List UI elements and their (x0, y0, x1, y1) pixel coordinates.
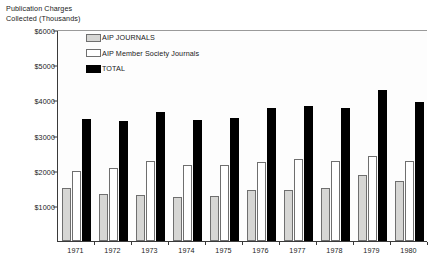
bar-1979-series-1 (358, 175, 367, 241)
bar-1975-series-1 (210, 196, 219, 241)
bar-1978-series-2 (331, 161, 340, 241)
y-tick-mark-4000 (53, 101, 57, 102)
x-tick-mark-1973 (168, 242, 169, 245)
bar-1976-series-3 (267, 108, 276, 241)
bar-1972-series-2 (109, 168, 118, 241)
bar-1979-series-2 (368, 156, 377, 241)
bar-1974-series-2 (183, 165, 192, 241)
legend-label-3: TOTAL (102, 64, 125, 73)
bar-1973-series-2 (146, 161, 155, 241)
x-tick-mark-1976 (279, 242, 280, 245)
chart-legend: AIP JOURNALSAIP Member Society JournalsT… (86, 33, 199, 73)
x-tick-mark-1978 (353, 242, 354, 245)
x-tick-label-1980: 1980 (400, 246, 416, 255)
bar-1976-series-1 (247, 190, 256, 241)
bar-1973-series-3 (156, 112, 165, 241)
bar-1977-series-2 (294, 159, 303, 241)
legend-label-1: AIP JOURNALS (102, 33, 155, 42)
bar-1972-series-1 (99, 194, 108, 241)
y-tick-mark-3000 (53, 136, 57, 137)
legend-label-2: AIP Member Society Journals (102, 49, 199, 58)
legend-item-2: AIP Member Society Journals (86, 49, 199, 58)
x-tick-mark-1977 (316, 242, 317, 245)
y-tick-mark-2000 (53, 171, 57, 172)
y-tick-mark-6000 (53, 31, 57, 32)
x-tick-label-1972: 1972 (104, 246, 120, 255)
legend-swatch-icon-3 (86, 65, 101, 73)
x-tick-label-1977: 1977 (289, 246, 305, 255)
bar-1977-series-1 (284, 190, 293, 241)
bar-1974-series-3 (193, 120, 202, 241)
y-tick-label-1000: $1000 (35, 202, 56, 211)
bar-1974-series-1 (173, 197, 182, 241)
x-tick-label-1979: 1979 (363, 246, 379, 255)
y-tick-label-5000: $5000 (35, 62, 56, 71)
x-tick-label-1976: 1976 (252, 246, 268, 255)
x-tick-label-1978: 1978 (326, 246, 342, 255)
bar-1971-series-1 (62, 188, 71, 241)
bar-1975-series-2 (220, 165, 229, 241)
bar-1971-series-2 (72, 171, 81, 241)
bar-1978-series-1 (321, 188, 330, 241)
y-tick-label-2000: $2000 (35, 167, 56, 176)
legend-item-1: AIP JOURNALS (86, 33, 199, 42)
bar-1980-series-3 (415, 102, 424, 241)
bar-1976-series-2 (257, 162, 266, 241)
bar-1977-series-3 (304, 106, 313, 241)
bar-1980-series-1 (395, 181, 404, 241)
x-tick-mark-1972 (131, 242, 132, 245)
y-tick-label-4000: $4000 (35, 97, 56, 106)
x-tick-label-1971: 1971 (67, 246, 83, 255)
bar-1978-series-3 (341, 108, 350, 241)
x-tick-label-1973: 1973 (141, 246, 157, 255)
x-tick-mark-1979 (390, 242, 391, 245)
y-tick-mark-1000 (53, 206, 57, 207)
y-tick-label-6000: $6000 (35, 27, 56, 36)
y-tick-label-3000: $3000 (35, 132, 56, 141)
y-axis: $1000$2000$3000$4000$5000$6000 (0, 0, 55, 271)
bar-1971-series-3 (82, 119, 91, 241)
legend-swatch-icon-2 (86, 49, 101, 57)
y-tick-mark-5000 (53, 66, 57, 67)
x-tick-label-1974: 1974 (178, 246, 194, 255)
x-tick-mark-1974 (205, 242, 206, 245)
chart-figure: Publication Charges Collected (Thousands… (0, 0, 434, 271)
legend-item-3: TOTAL (86, 64, 199, 73)
x-tick-mark-1975 (242, 242, 243, 245)
bar-1980-series-2 (405, 161, 414, 241)
bar-1979-series-3 (378, 90, 387, 241)
bar-1973-series-1 (136, 195, 145, 241)
bar-1975-series-3 (230, 118, 239, 241)
x-tick-mark-1971 (94, 242, 95, 245)
x-tick-label-1975: 1975 (215, 246, 231, 255)
bar-1972-series-3 (119, 121, 128, 241)
x-tick-mark-1980 (427, 242, 428, 245)
legend-swatch-icon-1 (86, 34, 101, 42)
